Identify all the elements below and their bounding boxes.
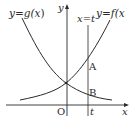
point-b-label: B xyxy=(89,87,96,98)
point-a-label: A xyxy=(88,61,97,72)
function-graph: y=g(x) y x=t y=f(x A B O t x xyxy=(0,0,133,117)
y-axis-arrow-icon xyxy=(65,4,69,9)
intersection-point xyxy=(65,82,68,85)
vertical-line-label: x=t xyxy=(77,13,96,24)
y-axis-label: y xyxy=(57,2,64,13)
t-tick-label: t xyxy=(90,106,95,117)
curve-f xyxy=(20,20,110,100)
origin-label: O xyxy=(57,106,65,117)
x-axis-label: x xyxy=(122,106,128,117)
curve-f-label: y=f(x xyxy=(95,7,125,19)
curve-g-label: y=g(x) xyxy=(8,7,45,19)
